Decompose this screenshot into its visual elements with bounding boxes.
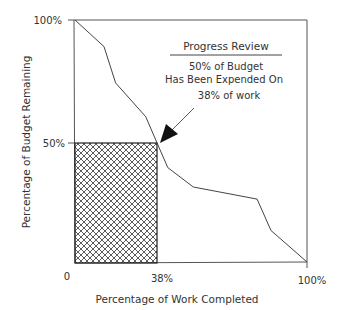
annotation-line-3: 38% of work — [198, 90, 261, 101]
x-tick-0: 0 — [64, 271, 70, 282]
annotation-heading: Progress Review — [183, 40, 269, 52]
x-axis-label: Percentage of Work Completed — [95, 293, 258, 305]
y-tick-50: 50% — [43, 138, 65, 149]
x-tick-38: 38% — [151, 273, 173, 284]
budget-spent-region — [75, 143, 157, 263]
y-tick-100: 100% — [33, 15, 62, 26]
annotation-line-2: Has Been Expended On — [165, 74, 283, 85]
y-axis-label: Percentage of Budget Remaining — [20, 56, 32, 229]
annotation: Progress Review 50% of Budget Has Been E… — [160, 40, 283, 143]
x-tick-100: 100% — [298, 275, 327, 286]
annotation-line-1: 50% of Budget — [189, 61, 263, 72]
arrow-shaft — [170, 108, 194, 132]
budget-progress-chart: Progress Review 50% of Budget Has Been E… — [0, 0, 342, 310]
